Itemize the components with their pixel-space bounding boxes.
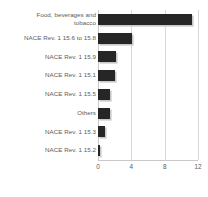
x-tick-label: 0 xyxy=(96,162,100,171)
x-axis-line xyxy=(98,160,198,161)
gridline-8 xyxy=(165,10,166,160)
category-label: NACE Rev. 1 15.2 xyxy=(0,146,96,154)
category-label: NACE Rev. 1 15.1 xyxy=(0,71,96,79)
category-label: NACE Rev. 1 15.3 xyxy=(0,128,96,136)
bar xyxy=(98,33,132,44)
bar xyxy=(98,108,110,119)
category-label: NACE Rev. 1 15.6 to 15.8 xyxy=(0,34,96,42)
bar xyxy=(98,51,116,62)
x-tick-label: 4 xyxy=(130,162,134,171)
x-axis-tick-labels: 04812 xyxy=(98,162,198,176)
category-label: Others xyxy=(0,109,96,117)
bar xyxy=(98,126,105,137)
category-label: NACE Rev. 1 15.5 xyxy=(0,90,96,98)
bar xyxy=(98,70,115,81)
bar-chart: Food, beverages and tobaccoNACE Rev. 1 1… xyxy=(0,0,208,197)
category-label: Food, beverages and tobacco xyxy=(0,11,96,26)
category-axis: Food, beverages and tobaccoNACE Rev. 1 1… xyxy=(0,10,96,160)
x-tick-label: 8 xyxy=(163,162,167,171)
bar xyxy=(98,89,110,100)
category-label: NACE Rev. 1 15.9 xyxy=(0,53,96,61)
x-tick-label: 12 xyxy=(194,162,201,171)
gridline-12 xyxy=(198,10,199,160)
plot-area xyxy=(98,10,198,160)
bar xyxy=(98,14,192,25)
bar xyxy=(98,145,100,156)
